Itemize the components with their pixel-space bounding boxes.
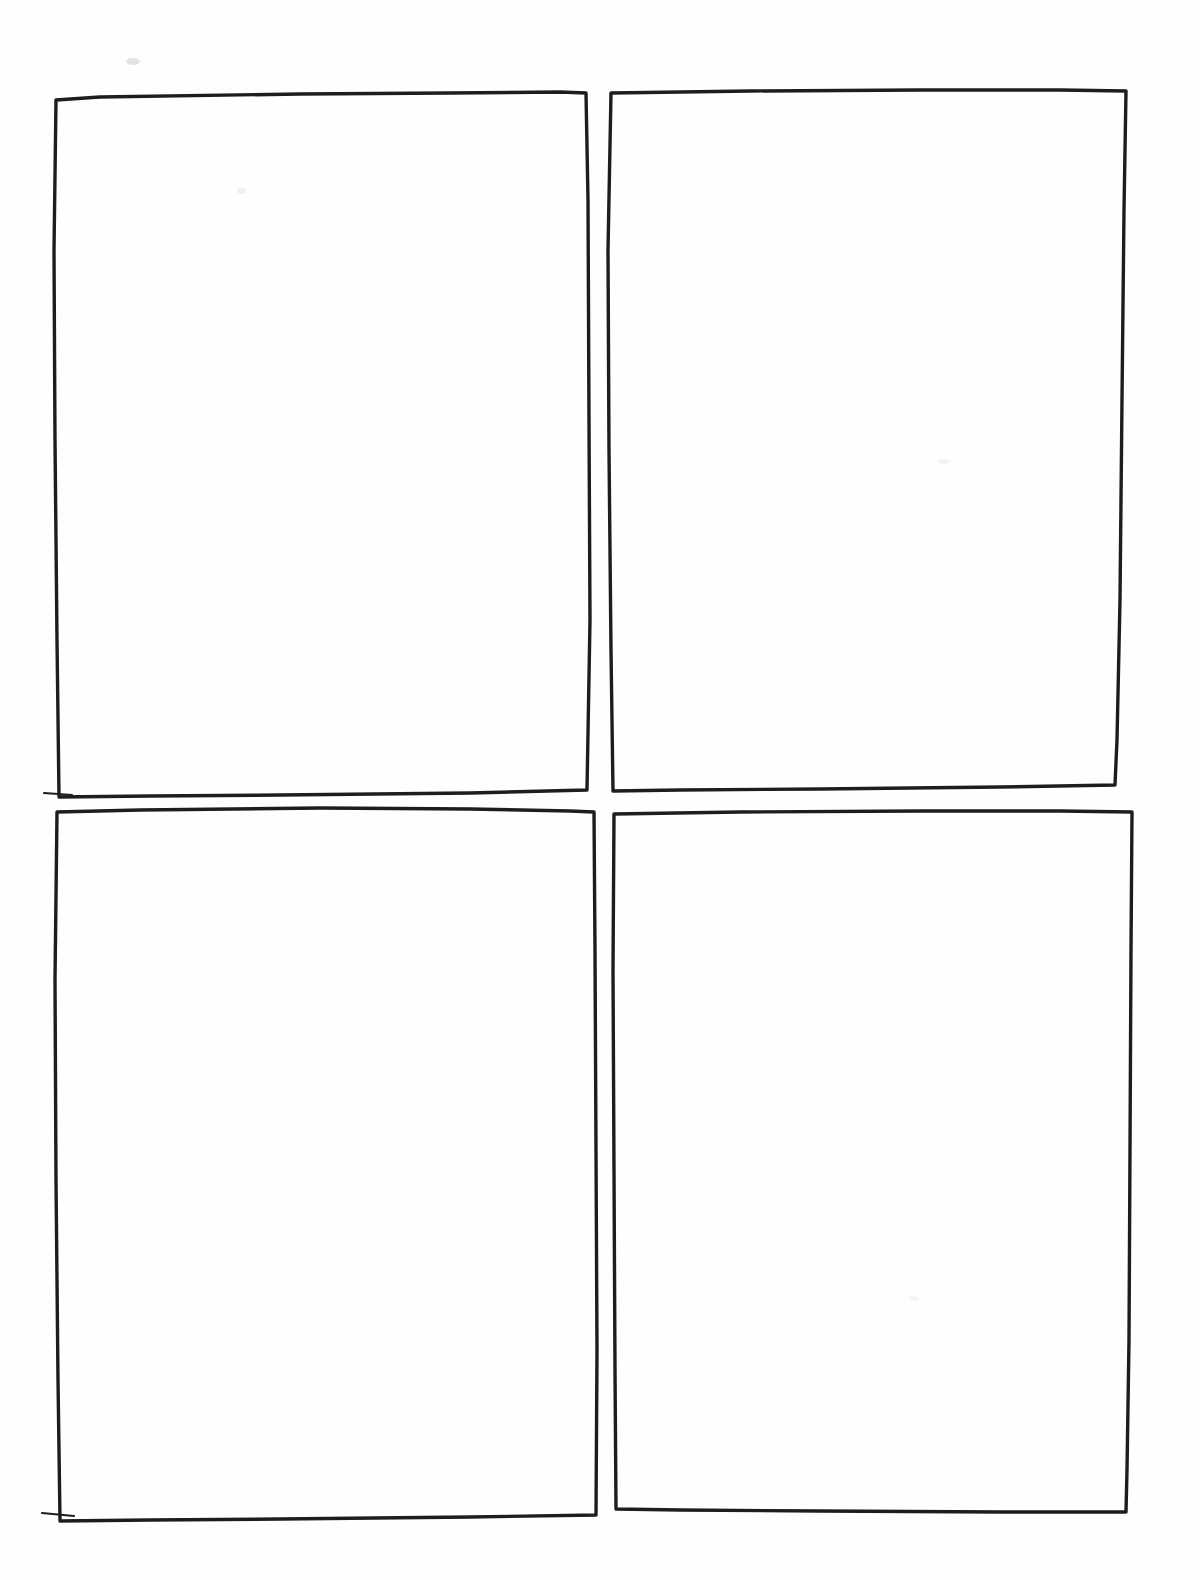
panel-1-drawing-area[interactable] (55, 95, 588, 797)
panel-4-drawing-area[interactable] (612, 810, 1133, 1513)
storyboard-page (0, 0, 1200, 1580)
panel-3-drawing-area[interactable] (55, 808, 588, 1520)
panel-2-drawing-area[interactable] (610, 90, 1128, 785)
